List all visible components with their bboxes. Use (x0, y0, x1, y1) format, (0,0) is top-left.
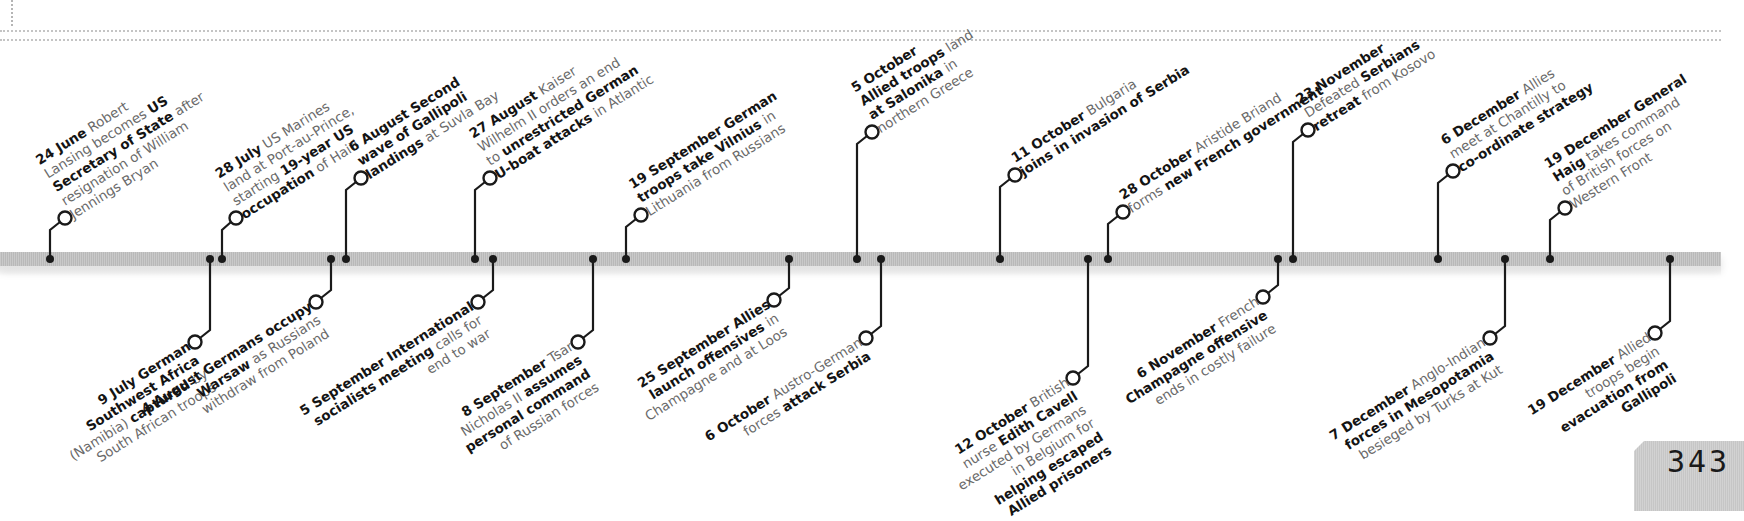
connector-line (583, 259, 593, 338)
connector-line (346, 182, 356, 259)
timeline-dot-icon (46, 255, 54, 263)
timeline-dot-icon (489, 255, 497, 263)
connector-line (1438, 175, 1448, 259)
connector-line (779, 259, 789, 296)
event-text: after (168, 88, 207, 121)
connector-line (857, 136, 867, 259)
timeline-dot-icon (342, 255, 350, 263)
connector-line (321, 259, 331, 298)
connector-line (1550, 212, 1560, 259)
timeline-dot-icon (589, 255, 597, 263)
timeline-dot-icon (1084, 255, 1092, 263)
timeline-dot-icon (1546, 255, 1554, 263)
timeline-dot-icon (327, 255, 335, 263)
connector-line (1268, 259, 1278, 293)
connector-line (475, 182, 485, 259)
connector-line (1078, 259, 1088, 374)
timeline-dot-icon (471, 255, 479, 263)
timeline-dot-icon (218, 255, 226, 263)
timeline-dot-icon (785, 255, 793, 263)
connector-line (871, 259, 881, 334)
connector-line (626, 219, 636, 259)
connector-line (1660, 259, 1670, 329)
connector-line (1000, 179, 1010, 259)
timeline-dot-icon (206, 255, 214, 263)
timeline-dot-icon (1666, 255, 1674, 263)
timeline-dot-icon (1104, 255, 1112, 263)
timeline-dot-icon (1289, 255, 1297, 263)
connector-line (1495, 259, 1505, 334)
timeline-dot-icon (1434, 255, 1442, 263)
connector-line (1108, 216, 1118, 259)
event-text: land (939, 26, 976, 57)
connector-line (1293, 134, 1303, 259)
connector-line (200, 259, 210, 338)
timeline-dot-icon (877, 255, 885, 263)
timeline-dot-icon (622, 255, 630, 263)
page-number: 343 (1667, 444, 1730, 479)
connector-line (483, 259, 493, 298)
timeline-dot-icon (853, 255, 861, 263)
timeline-dot-icon (1501, 255, 1509, 263)
timeline-dot-icon (996, 255, 1004, 263)
connector-line (50, 222, 60, 259)
timeline-dot-icon (1274, 255, 1282, 263)
connector-line (222, 222, 231, 259)
